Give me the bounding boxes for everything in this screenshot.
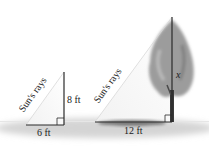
tree-shadow-label: 12 ft bbox=[124, 126, 143, 136]
tree-height-label: x bbox=[176, 70, 180, 80]
similar-triangles-diagram: 8 ft 6 ft Sun's rays x 12 ft Sun's rays bbox=[0, 0, 209, 152]
pole-height-label: 8 ft bbox=[67, 95, 81, 105]
pole-shadow-label: 6 ft bbox=[37, 128, 51, 138]
tree-icon bbox=[149, 20, 194, 97]
